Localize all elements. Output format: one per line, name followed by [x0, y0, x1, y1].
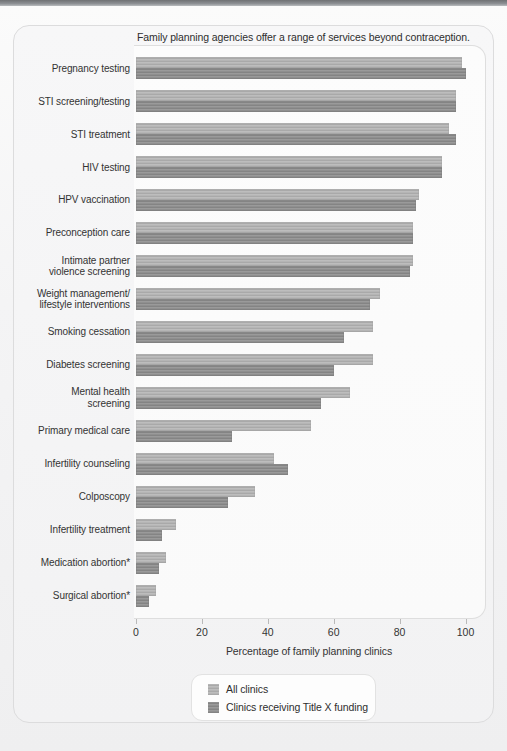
bar-group [136, 387, 482, 409]
bar-group [136, 420, 482, 442]
bar-all-clinics [136, 387, 350, 398]
bar-title-x-clinics [136, 200, 416, 211]
chart-title: Family planning agencies offer a range o… [137, 31, 482, 43]
bar-group [136, 156, 482, 178]
bar-group [136, 222, 482, 244]
x-tick-mark [268, 619, 269, 624]
bar-all-clinics [136, 453, 274, 464]
bar-group [136, 123, 482, 145]
category-label: HIV testing [6, 162, 130, 174]
bar-all-clinics [136, 57, 462, 68]
legend-swatch-icon-title-x [208, 702, 219, 713]
category-label: STI treatment [6, 129, 130, 141]
bar-all-clinics [136, 189, 419, 200]
x-axis-title: Percentage of family planning clinics [136, 645, 482, 657]
bar-all-clinics [136, 255, 413, 266]
bar-title-x-clinics [136, 497, 228, 508]
x-tick-mark [202, 619, 203, 624]
bar-group [136, 189, 482, 211]
x-tick-label: 0 [133, 626, 139, 638]
bar-all-clinics [136, 222, 413, 233]
bar-group [136, 552, 482, 574]
category-label-line: STI screening/testing [6, 96, 130, 108]
bar-group [136, 453, 482, 475]
x-tick-label: 20 [196, 626, 208, 638]
category-label-line: Primary medical care [6, 425, 130, 437]
category-label: Pregnancy testing [6, 63, 130, 75]
x-tick-mark [334, 619, 335, 624]
legend-label-title-x: Clinics receiving Title X funding [226, 701, 368, 713]
bar-title-x-clinics [136, 101, 456, 112]
legend-swatch-icon-all-clinics [208, 684, 219, 695]
bar-title-x-clinics [136, 464, 288, 475]
bar-all-clinics [136, 288, 380, 299]
bar-title-x-clinics [136, 167, 442, 178]
category-label: Intimate partnerviolence screening [6, 255, 130, 278]
bar-title-x-clinics [136, 365, 334, 376]
bar-all-clinics [136, 321, 373, 332]
x-tick-mark [136, 619, 137, 624]
chart-legend: All clinics Clinics receiving Title X fu… [191, 674, 376, 721]
category-label: Colposcopy [6, 491, 130, 503]
bar-title-x-clinics [136, 266, 410, 277]
category-label-line: Colposcopy [6, 491, 130, 503]
bar-title-x-clinics [136, 68, 466, 79]
bar-title-x-clinics [136, 134, 456, 145]
bar-all-clinics [136, 123, 449, 134]
category-label: Primary medical care [6, 425, 130, 437]
bar-group [136, 585, 482, 607]
bar-all-clinics [136, 156, 442, 167]
bar-group [136, 354, 482, 376]
plot-area [136, 52, 482, 612]
category-label-line: violence screening [6, 266, 130, 278]
category-label-line: HPV vaccination [6, 194, 130, 206]
category-label-line: Intimate partner [6, 255, 130, 267]
bar-group [136, 321, 482, 343]
legend-item-title-x: Clinics receiving Title X funding [208, 700, 368, 714]
category-label-line: Pregnancy testing [6, 63, 130, 75]
category-label-line: HIV testing [6, 162, 130, 174]
category-label: HPV vaccination [6, 194, 130, 206]
category-label-line: Diabetes screening [6, 359, 130, 371]
bar-title-x-clinics [136, 596, 149, 607]
category-label-line: STI treatment [6, 129, 130, 141]
bar-title-x-clinics [136, 530, 162, 541]
category-label: Preconception care [6, 227, 130, 239]
category-label-line: Medication abortion* [6, 557, 130, 569]
bar-title-x-clinics [136, 332, 344, 343]
bar-title-x-clinics [136, 299, 370, 310]
bar-all-clinics [136, 486, 255, 497]
bar-all-clinics [136, 552, 166, 563]
bar-all-clinics [136, 585, 156, 596]
category-label: STI screening/testing [6, 96, 130, 108]
bar-all-clinics [136, 519, 176, 530]
category-label-line: screening [6, 398, 130, 410]
bar-title-x-clinics [136, 563, 159, 574]
category-label-line: Mental health [6, 386, 130, 398]
legend-item-all-clinics: All clinics [208, 682, 268, 696]
category-label: Smoking cessation [6, 326, 130, 338]
x-tick-label: 40 [262, 626, 274, 638]
category-label-line: Smoking cessation [6, 326, 130, 338]
x-tick-label: 100 [457, 626, 475, 638]
category-label-line: Weight management/ [6, 288, 130, 300]
x-tick-label: 80 [394, 626, 406, 638]
category-label: Mental healthscreening [6, 386, 130, 409]
category-label: Weight management/lifestyle intervention… [6, 288, 130, 311]
bar-group [136, 57, 482, 79]
bar-title-x-clinics [136, 233, 413, 244]
bar-all-clinics [136, 420, 311, 431]
category-label-line: lifestyle interventions [6, 299, 130, 311]
bar-all-clinics [136, 354, 373, 365]
category-label: Infertility treatment [6, 524, 130, 536]
category-label: Infertility counseling [6, 458, 130, 470]
x-tick-mark [400, 619, 401, 624]
bar-group [136, 486, 482, 508]
bar-all-clinics [136, 90, 456, 101]
x-tick-mark [466, 619, 467, 624]
category-label-line: Surgical abortion* [6, 590, 130, 602]
bar-group [136, 255, 482, 277]
category-label: Surgical abortion* [6, 590, 130, 602]
legend-label-all-clinics: All clinics [226, 683, 268, 695]
bar-group [136, 90, 482, 112]
